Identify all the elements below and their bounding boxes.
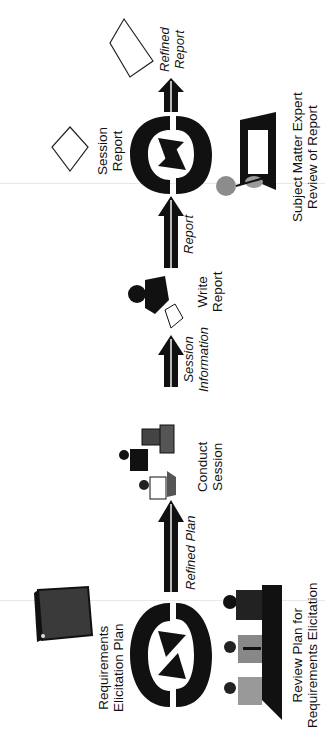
- cycle-arrows-icon: [128, 595, 213, 715]
- caption-conduct-session: Conduct Session: [195, 442, 225, 492]
- label-refined-report: Refined Report: [158, 27, 187, 72]
- arrow-refined-plan: [156, 500, 186, 592]
- caption-session-report: Session Report: [95, 127, 125, 175]
- refined-report-diamond-icon: [108, 17, 158, 82]
- session-report-diamond-icon: [50, 125, 90, 175]
- label-report: Report: [182, 215, 197, 254]
- meeting-people-icon: [218, 585, 288, 720]
- arrow-refined-report: [156, 78, 186, 112]
- caption-review-plan: Review Plan for Requirements Elicitation: [290, 582, 320, 728]
- label-session-information: Session Information: [182, 327, 211, 392]
- caption-requirements-elicitation-plan: Requirements Elicitation Plan: [96, 623, 126, 712]
- conduct-session-icon: [112, 425, 192, 500]
- sme-review-icon: [212, 112, 282, 197]
- write-report-icon: [125, 270, 190, 330]
- binder-icon: [28, 585, 98, 645]
- caption-sme-review: Subject Matter Expert Review of Report: [290, 92, 320, 222]
- caption-write-report: Write Report: [195, 271, 225, 312]
- cycle-arrows-icon: [128, 112, 213, 197]
- label-refined-plan: Refined Plan: [184, 516, 199, 590]
